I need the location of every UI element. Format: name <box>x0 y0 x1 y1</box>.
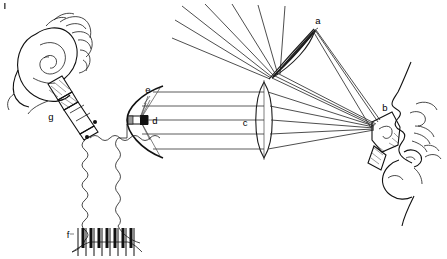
speaker-face-profile <box>382 62 441 226</box>
light-source-element <box>128 115 148 125</box>
tilted-condenser-lens <box>269 29 316 79</box>
cable-to-keyboard-right <box>116 124 141 243</box>
converging-rays-lens-c-to-mouth <box>268 92 374 149</box>
keyboard <box>78 228 134 256</box>
optical-diagram: a b c d e f g <box>0 0 447 259</box>
corner-artifact <box>4 3 6 9</box>
figure-labels: a b c d e f g <box>48 15 387 240</box>
converging-rays-lens-a-to-mouth <box>272 30 380 128</box>
label-c: c <box>243 117 248 128</box>
label-f: f <box>67 229 70 240</box>
label-d: d <box>152 115 157 126</box>
figure-canvas: a b c d e f g <box>0 0 447 259</box>
label-b: b <box>382 102 387 113</box>
label-e: e <box>145 84 150 95</box>
label-a: a <box>315 15 321 26</box>
label-g: g <box>48 111 53 122</box>
earphone-receiver <box>28 76 98 140</box>
listener-ear <box>8 13 93 110</box>
upper-diagonal-ray-bundle <box>172 4 285 79</box>
label-a-leader <box>315 28 318 30</box>
